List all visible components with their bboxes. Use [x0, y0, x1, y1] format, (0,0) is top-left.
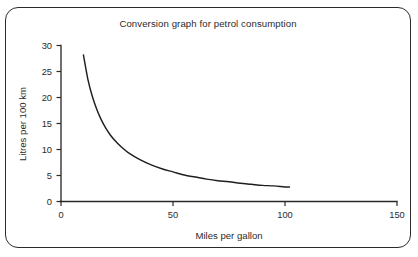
y-axis-title: Litres per 100 km [17, 87, 28, 161]
y-tick-label-0: 0 [47, 197, 52, 207]
x-tick-label-100: 100 [277, 210, 293, 220]
x-tick-label-50: 50 [168, 210, 178, 220]
y-axis-tick-labels: 0 5 10 15 20 25 30 [42, 41, 52, 207]
y-tick-label-5: 5 [47, 171, 52, 181]
y-tick-label-25: 25 [42, 67, 52, 77]
chart-plot-area: 0 5 10 15 20 25 30 0 50 100 150 Miles pe… [6, 8, 412, 249]
y-tick-label-10: 10 [42, 145, 52, 155]
x-axis-title: Miles per gallon [195, 230, 262, 241]
data-series-line [83, 55, 289, 187]
x-axis-tick-labels: 0 50 100 150 [58, 210, 404, 220]
y-tick-label-30: 30 [42, 41, 52, 51]
x-tick-label-0: 0 [58, 210, 63, 220]
x-tick-label-150: 150 [389, 210, 405, 220]
y-tick-label-15: 15 [42, 119, 52, 129]
figure-frame: Conversion graph for petrol consumption … [5, 7, 411, 248]
y-tick-label-20: 20 [42, 93, 52, 103]
